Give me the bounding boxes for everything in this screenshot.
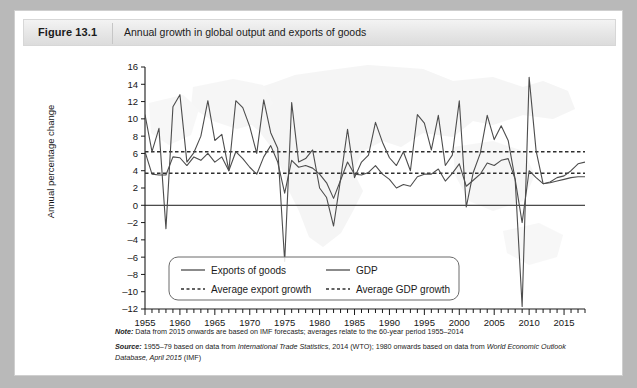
source-label: Source: (115, 342, 142, 351)
y-tick-label: –6 (127, 252, 138, 263)
y-tick-label: 2 (133, 182, 138, 193)
source-line: Source: 1955–79 based on data from Inter… (115, 341, 585, 364)
y-tick-label: –2 (127, 217, 138, 228)
y-tick-label: –10 (122, 286, 138, 297)
source-text-c: (IMF) (182, 353, 201, 362)
figure-header-bar: Figure 13.1 Annual growth in global outp… (23, 19, 616, 46)
source-italic-trade-stats: International Trade Statistics (238, 342, 329, 351)
x-tick-label: 1960 (169, 317, 190, 326)
x-tick-label: 2010 (519, 317, 540, 326)
y-tick-label: 16 (127, 61, 138, 72)
source-text-b: , 2014 (WTO); 1980 onwards based on data… (328, 342, 486, 351)
y-tick-label: 10 (127, 113, 138, 124)
y-tick-label: 12 (127, 96, 138, 107)
x-tick-label: 1985 (344, 317, 365, 326)
y-tick-labels: –12–10–8–6–4–20246810121416 (122, 61, 138, 314)
chart-legend: Exports of goods GDP Average export grow… (169, 257, 459, 300)
x-tick-label: 2000 (449, 317, 470, 326)
y-tick-label: –8 (127, 269, 138, 280)
x-tick-label: 1980 (309, 317, 330, 326)
x-tick-label: 1970 (239, 317, 260, 326)
x-tick-label: 1975 (274, 317, 295, 326)
figure-caption-label: Annual growth in global output and expor… (124, 26, 366, 38)
note-text: Data from 2015 onwards are based on IMF … (133, 327, 463, 336)
background-world-map-watermark (149, 65, 575, 265)
y-tick-label: 4 (133, 165, 138, 176)
x-tick-label: 1955 (134, 317, 155, 326)
note-label: Note: (115, 327, 133, 336)
source-text-a: 1955–79 based on data from (142, 342, 238, 351)
x-tick-label: 2005 (484, 317, 505, 326)
legend-label-gdp: GDP (356, 265, 378, 276)
y-tick-label: 0 (133, 200, 138, 211)
y-tick-label: 14 (127, 79, 138, 90)
chart-plot-area: Annual percentage change –12–10–8–6–4–20… (23, 51, 616, 326)
legend-label-exports: Exports of goods (211, 265, 286, 276)
x-tick-label: 1995 (414, 317, 435, 326)
note-line: Note: Data from 2015 onwards are based o… (115, 326, 585, 338)
x-tick-label: 1965 (204, 317, 225, 326)
y-tick-label: –4 (127, 234, 138, 245)
y-tick-label: 8 (133, 131, 138, 142)
y-tick-label: –12 (122, 303, 138, 314)
header-divider (112, 23, 113, 44)
figure-number-label: Figure 13.1 (38, 26, 97, 38)
x-tick-labels: 1955196019651970197519801985199019952000… (134, 317, 574, 326)
legend-label-avg-export: Average export growth (211, 284, 311, 295)
figure-card: Figure 13.1 Annual growth in global outp… (14, 10, 623, 376)
legend-label-avg-gdp: Average GDP growth (356, 284, 450, 295)
line-chart-svg: –12–10–8–6–4–20246810121416 195519601965… (23, 51, 616, 326)
x-tick-label: 2015 (553, 317, 574, 326)
figure-notes: Note: Data from 2015 onwards are based o… (115, 326, 585, 364)
y-tick-label: 6 (133, 148, 138, 159)
x-tick-label: 1990 (379, 317, 400, 326)
